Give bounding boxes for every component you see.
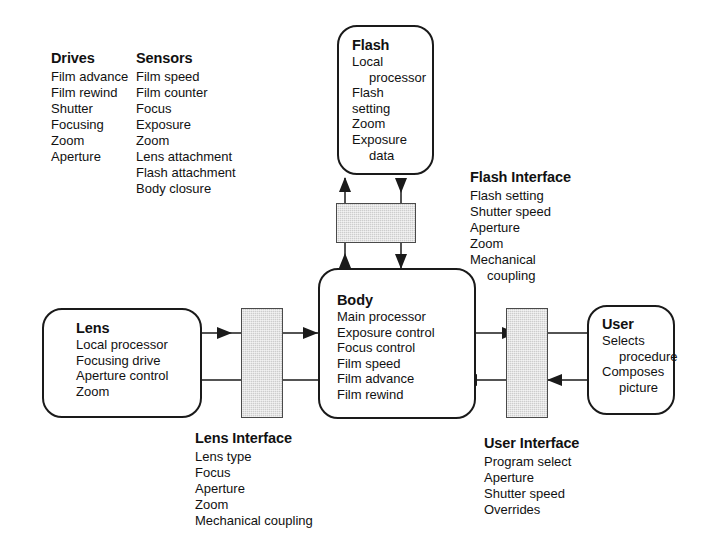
annotation-user-interface-title: User Interface <box>484 434 579 453</box>
annotation-user-interface-item-3: Overrides <box>484 502 579 518</box>
node-flash-line-3: setting <box>352 101 432 117</box>
annotation-flash-interface: Flash Interface Flash setting Shutter sp… <box>470 168 571 284</box>
lens-interface-bar <box>241 308 283 418</box>
node-body-line-2: Focus control <box>337 340 474 356</box>
annotation-flash-interface-item-0: Flash setting <box>470 188 571 204</box>
annotation-drives-item-4: Zoom <box>51 133 128 149</box>
arrowhead-lens-bar-in <box>217 327 232 339</box>
node-body-line-1: Exposure control <box>337 325 474 341</box>
node-flash-line-0: Local <box>352 54 432 70</box>
node-lens-line-1: Focusing drive <box>76 353 200 369</box>
annotation-drives-title: Drives <box>51 49 128 68</box>
annotation-flash-interface-item-1: Shutter speed <box>470 204 571 220</box>
node-lens-line-3: Zoom <box>76 384 200 400</box>
node-user-line-1: procedure <box>602 349 673 365</box>
annotation-drives-item-5: Aperture <box>51 149 128 165</box>
node-flash[interactable]: Flash Local processor Flash setting Zoom… <box>337 25 434 175</box>
node-flash-line-1: processor <box>352 70 432 86</box>
arrowhead-down-body <box>395 254 407 269</box>
node-user-line-0: Selects <box>602 333 673 349</box>
node-body-line-5: Film rewind <box>337 387 474 403</box>
annotation-lens-interface: Lens Interface Lens type Focus Aperture … <box>195 429 313 529</box>
node-body-title: Body <box>337 292 474 309</box>
node-user-line-3: picture <box>602 380 673 396</box>
annotation-drives: Drives Film advance Film rewind Shutter … <box>51 49 128 165</box>
node-lens[interactable]: Lens Local processor Focusing drive Aper… <box>42 308 202 418</box>
annotation-flash-interface-item-3: Zoom <box>470 236 571 252</box>
annotation-drives-item-0: Film advance <box>51 69 128 85</box>
node-body[interactable]: Body Main processor Exposure control Foc… <box>318 268 476 419</box>
node-lens-title: Lens <box>76 320 200 337</box>
diagram-canvas: Flash Local processor Flash setting Zoom… <box>0 0 716 547</box>
node-flash-line-2: Flash <box>352 85 432 101</box>
annotation-drives-item-2: Shutter <box>51 101 128 117</box>
annotation-sensors-item-6: Flash attachment <box>136 165 236 181</box>
annotation-flash-interface-item-4: Mechanical <box>470 252 571 268</box>
annotation-lens-interface-item-1: Focus <box>195 465 313 481</box>
node-body-line-4: Film advance <box>337 371 474 387</box>
node-user-line-2: Composes <box>602 364 673 380</box>
annotation-flash-interface-item-2: Aperture <box>470 220 571 236</box>
annotation-lens-interface-item-3: Zoom <box>195 497 313 513</box>
arrowhead-up-bar <box>339 253 351 268</box>
node-lens-line-0: Local processor <box>76 337 200 353</box>
annotation-user-interface-item-1: Aperture <box>484 470 579 486</box>
annotation-user-interface-item-0: Program select <box>484 454 579 470</box>
node-user-title: User <box>602 316 673 333</box>
annotation-flash-interface-item-5: coupling <box>470 268 571 284</box>
arrowhead-up-flash <box>339 177 351 192</box>
annotation-lens-interface-item-0: Lens type <box>195 449 313 465</box>
annotation-user-interface: User Interface Program select Aperture S… <box>484 434 579 518</box>
annotation-sensors-item-0: Film speed <box>136 69 236 85</box>
annotation-drives-item-3: Focusing <box>51 117 128 133</box>
node-body-line-0: Main processor <box>337 309 474 325</box>
annotation-flash-interface-title: Flash Interface <box>470 168 571 187</box>
arrowhead-down-bar <box>395 178 407 193</box>
flash-interface-bar <box>336 203 416 243</box>
annotation-lens-interface-item-4: Mechanical coupling <box>195 513 313 529</box>
arrowhead-user-bar-out <box>547 374 562 386</box>
annotation-sensors-item-5: Lens attachment <box>136 149 236 165</box>
annotation-sensors-item-4: Zoom <box>136 133 236 149</box>
annotation-lens-interface-item-2: Aperture <box>195 481 313 497</box>
node-lens-line-2: Aperture control <box>76 368 200 384</box>
annotation-sensors-item-7: Body closure <box>136 181 236 197</box>
annotation-drives-item-1: Film rewind <box>51 85 128 101</box>
arrowhead-lens-body-in <box>303 327 318 339</box>
node-flash-line-4: Zoom <box>352 116 432 132</box>
node-user[interactable]: User Selects procedure Composes picture <box>587 305 675 415</box>
node-flash-title: Flash <box>352 37 432 54</box>
annotation-sensors-item-1: Film counter <box>136 85 236 101</box>
user-interface-bar <box>506 308 548 418</box>
node-flash-line-6: data <box>352 148 432 164</box>
annotation-sensors-item-3: Exposure <box>136 117 236 133</box>
annotation-lens-interface-title: Lens Interface <box>195 429 313 448</box>
annotation-sensors-title: Sensors <box>136 49 236 68</box>
annotation-user-interface-item-2: Shutter speed <box>484 486 579 502</box>
annotation-sensors-item-2: Focus <box>136 101 236 117</box>
node-flash-line-5: Exposure <box>352 132 432 148</box>
node-body-line-3: Film speed <box>337 356 474 372</box>
annotation-sensors: Sensors Film speed Film counter Focus Ex… <box>136 49 236 197</box>
